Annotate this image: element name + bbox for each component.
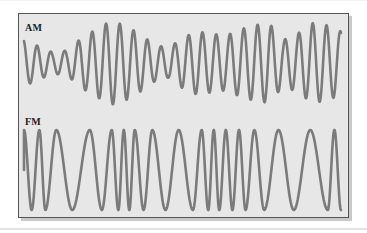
fm-waveform — [24, 130, 341, 210]
am-label: AM — [25, 22, 42, 33]
fm-label: FM — [25, 116, 41, 127]
bottom-divider — [0, 228, 367, 230]
am-waveform — [24, 23, 341, 104]
waveform-canvas — [0, 0, 367, 233]
